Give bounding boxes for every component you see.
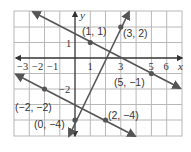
y-tick-labels: 1 −2 [59,38,71,96]
label-point-3-2: (3, 2) [123,27,148,39]
label-point-0-neg4: (0, −4) [34,118,65,130]
tick-y-1: 1 [66,38,71,49]
point-5-neg1 [149,71,154,76]
label-point-1-1: (1, 1) [82,25,107,37]
tick-x-6: 6 [164,61,169,72]
y-axis-label: y [79,9,85,21]
tick-x-neg3: −3 [17,61,28,72]
x-axis-label: x [177,60,183,72]
point-0-neg4 [72,117,77,122]
tick-x-3: 3 [118,61,123,72]
label-point-2-neg4: (2, −4) [108,109,139,121]
coordinate-plane: x y −3 −2 −1 1 3 5 6 1 −2 (1, 1) (3, 2) … [0,0,191,152]
line-a [33,12,180,88]
tick-x-neg1: −1 [47,61,58,72]
point-neg2-neg2 [42,86,47,91]
point-1-1 [88,40,93,45]
tick-x-neg2: −2 [32,61,43,72]
tick-y-neg2: −2 [59,84,70,95]
tick-x-1: 1 [88,61,93,72]
label-point-5-neg1: (5, −1) [114,76,145,88]
tick-x-5: 5 [149,61,154,72]
label-point-neg2-neg2: (−2, −2) [15,101,52,113]
